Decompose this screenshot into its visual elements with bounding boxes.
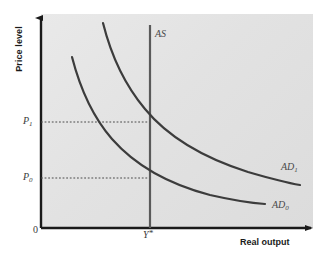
tick-label-y-star-asterisk: * — [149, 228, 154, 238]
tick-label-p1: P1 — [23, 115, 33, 126]
x-axis-label: Real output — [240, 237, 290, 247]
origin-label: 0 — [33, 224, 38, 235]
ad0-curve-label-text: AD — [272, 199, 285, 210]
y-axis-label: Price level — [14, 14, 24, 84]
ad1-curve-label-text: AD — [281, 161, 294, 172]
ad1-curve-label: AD1 — [281, 161, 298, 172]
ad0-curve — [72, 57, 265, 204]
tick-label-y-star: Y* — [143, 229, 153, 240]
as-curve-label: AS — [155, 28, 166, 39]
ad1-curve-label-sub: 1 — [294, 166, 298, 174]
tick-label-p1-sub: 1 — [29, 120, 33, 128]
ad0-curve-label-sub: 0 — [285, 204, 289, 212]
ad0-curve-label: AD0 — [272, 199, 289, 210]
ad1-curve — [103, 23, 300, 185]
tick-label-p0: P0 — [23, 171, 33, 182]
tick-label-y-star-text: Y — [143, 229, 149, 240]
ad-as-figure: Price level Real output 0 P1 P0 Y* AS AD… — [0, 0, 331, 260]
tick-label-p0-sub: 0 — [29, 176, 33, 184]
diagram-canvas — [0, 0, 331, 260]
